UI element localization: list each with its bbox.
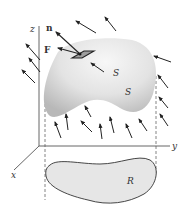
normal-vector-label: n <box>46 23 53 33</box>
field-arrow <box>160 114 168 126</box>
field-arrow <box>139 119 147 131</box>
field-arrow <box>22 70 35 83</box>
field-arrow <box>105 17 116 31</box>
x-axis-label: x <box>11 170 16 180</box>
region-r <box>46 158 157 203</box>
field-arrow <box>126 124 132 138</box>
field-vector-label: F <box>44 45 51 55</box>
field-arrow <box>26 44 40 60</box>
x-axis <box>14 146 39 170</box>
field-arrow <box>158 75 168 88</box>
field-arrow <box>66 114 68 130</box>
field-arrow <box>159 97 168 108</box>
field-arrow <box>110 117 114 133</box>
field-arrow <box>154 56 171 62</box>
field-arrow <box>100 124 102 139</box>
z-axis-label: z <box>29 24 35 34</box>
field-arrow <box>85 106 91 117</box>
field-arrow <box>55 122 61 138</box>
field-arrow <box>29 58 40 72</box>
surface-s <box>44 38 156 117</box>
region-label: R <box>126 176 134 186</box>
field-arrow <box>76 21 96 33</box>
field-arrow <box>81 121 92 132</box>
flux-surface-diagram: z y x n F S S R <box>0 0 188 213</box>
surface-label-top: S <box>113 68 119 78</box>
surface-label-middle: S <box>125 87 131 97</box>
y-axis-label: y <box>171 141 178 151</box>
